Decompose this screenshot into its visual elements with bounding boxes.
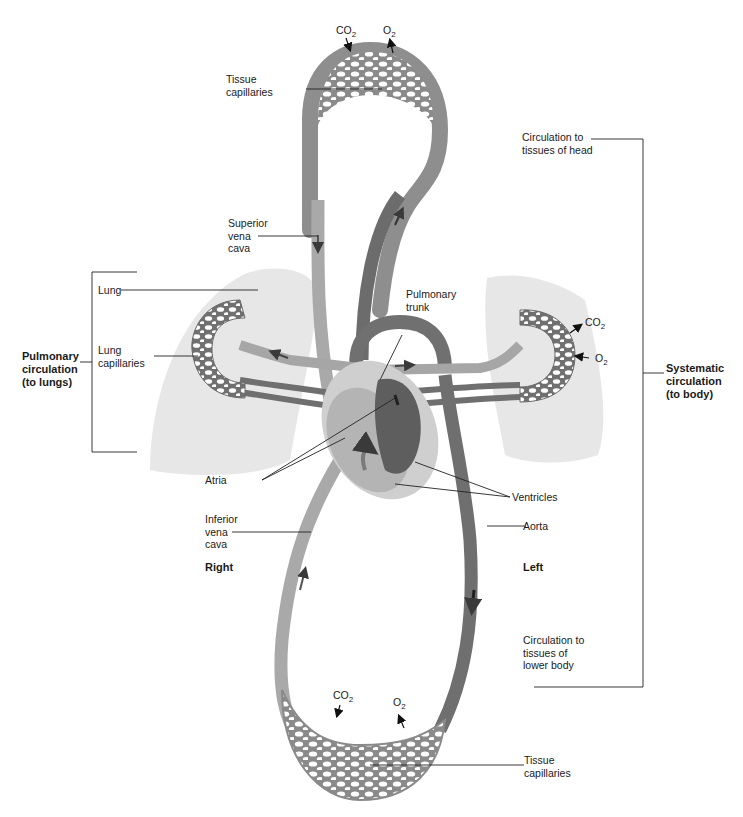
label-pulmonary-trunk: Pulmonary trunk	[406, 288, 456, 313]
label-left: Left	[523, 561, 543, 574]
gas-co2-top: CO2	[336, 24, 356, 39]
label-superior-vena-cava: Superior vena cava	[228, 217, 268, 255]
label-lung-capillaries: Lung capillaries	[98, 344, 145, 369]
circulation-diagram	[0, 0, 743, 817]
gas-o2-bottom: O2	[393, 696, 406, 711]
label-circulation-lower-body: Circulation to tissues of lower body	[523, 634, 584, 672]
label-ventricles: Ventricles	[512, 491, 558, 504]
superior-vena-cava-vessel	[318, 200, 330, 400]
gas-o2-top: O2	[383, 24, 396, 39]
label-lung: Lung	[98, 284, 121, 297]
left-lung	[485, 275, 603, 462]
label-circulation-head: Circulation to tissues of head	[522, 131, 593, 156]
gas-o2-lung: O2	[595, 352, 608, 367]
gas-co2-lung: CO2	[585, 316, 605, 331]
label-tissue-capillaries-bottom: Tissue capillaries	[524, 754, 571, 779]
aorta-vessel	[440, 375, 471, 730]
label-right: Right	[205, 561, 233, 574]
label-aorta: Aorta	[523, 520, 548, 533]
label-pulmonary-circulation: Pulmonary circulation (to lungs)	[22, 350, 79, 389]
lower-body-capillaries	[282, 690, 445, 800]
label-inferior-vena-cava: Inferior vena cava	[205, 513, 238, 551]
right-lung	[150, 269, 318, 476]
gas-co2-bottom: CO2	[333, 689, 353, 704]
label-atria: Atria	[205, 474, 227, 487]
label-systematic-circulation: Systematic circulation (to body)	[666, 362, 724, 401]
label-tissue-capillaries-top: Tissue capillaries	[226, 73, 273, 98]
inferior-vena-cava-vessel	[281, 460, 340, 740]
